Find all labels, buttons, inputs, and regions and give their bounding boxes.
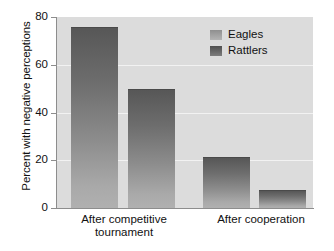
tick-label-80: 80 — [8, 11, 48, 23]
x-axis-line — [56, 208, 314, 209]
legend-swatch-rattlers-icon — [210, 46, 222, 56]
x-axis-label-group-1: After competitive tournament — [44, 213, 204, 239]
legend-swatch-eagles-icon — [210, 30, 222, 40]
y-axis-line — [56, 17, 57, 209]
bar-chart: Percent with negative perceptions 80 60 … — [0, 0, 334, 251]
tick-mark-80 — [51, 17, 56, 18]
tick-mark-20 — [51, 160, 56, 161]
x-axis-label-group-2-line-1: After cooperation — [217, 213, 305, 225]
bar-rattlers-cooperation[interactable] — [259, 190, 306, 208]
plot-area — [57, 17, 313, 208]
tick-mark-40 — [51, 113, 56, 114]
x-axis-label-group-2: After cooperation — [196, 213, 326, 226]
x-axis-label-group-1-line-1: After competitive — [81, 213, 167, 225]
legend: Eagles Rattlers — [210, 28, 268, 60]
legend-item-eagles[interactable]: Eagles — [210, 28, 268, 42]
legend-label-rattlers: Rattlers — [228, 45, 268, 57]
tick-label-0: 0 — [8, 202, 48, 214]
legend-label-eagles: Eagles — [228, 29, 263, 41]
tick-label-20: 20 — [8, 154, 48, 166]
bar-eagles-cooperation[interactable] — [203, 157, 250, 208]
legend-item-rattlers[interactable]: Rattlers — [210, 44, 268, 58]
tick-mark-60 — [51, 65, 56, 66]
bar-rattlers-competitive[interactable] — [128, 89, 175, 208]
bar-eagles-competitive[interactable] — [71, 27, 118, 208]
tick-label-60: 60 — [8, 59, 48, 71]
tick-mark-0 — [51, 208, 56, 209]
tick-label-40: 40 — [8, 107, 48, 119]
x-axis-label-group-1-line-2: tournament — [44, 226, 204, 239]
